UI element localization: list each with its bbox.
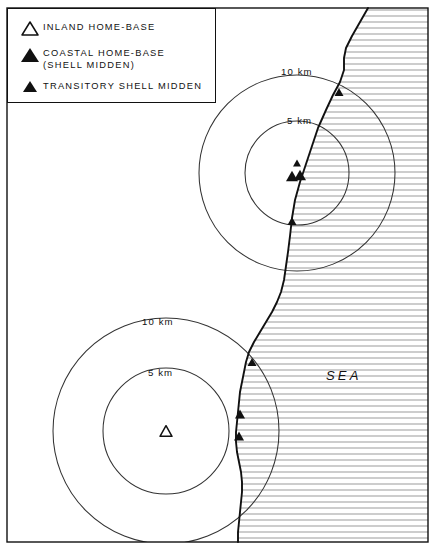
legend-line-1: INLAND HOME-BASE [43,22,155,32]
catchment-ring-5km [245,121,349,225]
legend-line-1: TRANSITORY SHELL MIDDEN [43,81,202,91]
map-legend: INLAND HOME-BASE COASTAL HOME-BASE (SHEL… [7,8,216,103]
site-symbols [160,88,344,440]
open-triangle-icon [17,21,43,36]
ring-label-10km: 10 km [281,66,313,77]
site-marker-inland-home-base [160,426,172,437]
catchment-ring-10km [199,75,395,271]
legend-item-coastal-home-base: COASTAL HOME-BASE (SHELL MIDDEN) [17,47,165,71]
legend-label-inland-home-base: INLAND HOME-BASE [43,21,155,34]
legend-line-2: (SHELL MIDDEN) [43,60,165,72]
site-marker-transitory-shell-midden [288,217,297,225]
legend-item-transitory-shell-midden: TRANSITORY SHELL MIDDEN [17,80,202,93]
filled-triangle-large-icon [17,47,43,63]
site-marker-transitory-shell-midden [235,410,245,419]
catchment-ring-10km [53,318,279,544]
legend-label-transitory-shell-midden: TRANSITORY SHELL MIDDEN [43,80,202,93]
legend-item-inland-home-base: INLAND HOME-BASE [17,21,155,36]
catchment-ring-5km [103,368,229,494]
site-catchment-map: 10 km5 km10 km5 km SEA INLAND HOME-BASE … [0,0,438,550]
filled-triangle-small-icon [17,80,43,93]
legend-line-1: COASTAL HOME-BASE [43,48,165,58]
legend-label-coastal-home-base: COASTAL HOME-BASE (SHELL MIDDEN) [43,47,165,71]
ring-label-5km: 5 km [148,367,173,378]
ring-label-5km: 5 km [287,115,312,126]
sea-label: SEA [326,368,362,383]
catchment-circles [53,75,395,544]
ring-label-10km: 10 km [142,316,174,327]
site-marker-transitory-shell-midden [293,159,301,166]
